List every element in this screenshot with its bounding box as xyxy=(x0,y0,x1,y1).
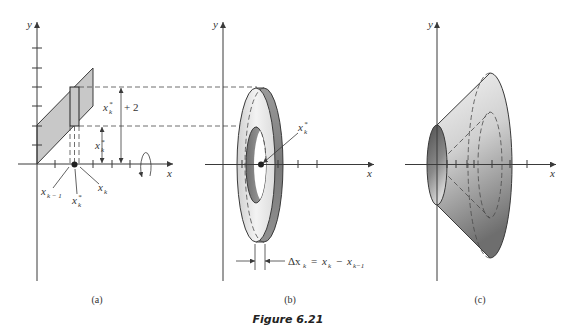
outer-radius-label: x * k + 2 xyxy=(102,100,138,116)
center-point-label: x * k xyxy=(297,120,308,136)
svg-text:x: x xyxy=(297,121,303,133)
point-pointers xyxy=(53,167,99,194)
svg-text:x: x xyxy=(40,185,46,197)
svg-text:*: * xyxy=(109,100,113,108)
y-axis-label: y xyxy=(26,18,32,30)
panel-c: y x (c) xyxy=(405,18,556,306)
rotation-arrow-icon xyxy=(141,153,151,177)
y-axis-label: y xyxy=(427,18,433,30)
svg-text:Δx: Δx xyxy=(288,255,301,267)
svg-text:*: * xyxy=(101,138,105,146)
panel-c-label: (c) xyxy=(474,294,485,306)
svg-text:k: k xyxy=(303,262,307,270)
thickness-label: Δx k = x k − x k−1 xyxy=(288,255,364,270)
svg-text:x: x xyxy=(94,139,100,151)
svg-text:*: * xyxy=(78,193,82,201)
thickness-dimension xyxy=(236,244,285,270)
svg-text:x: x xyxy=(321,255,327,267)
point-label-mid: x * k xyxy=(71,193,82,209)
panel-b: y x x * k xyxy=(205,18,374,306)
inner-radius-label: x * k xyxy=(94,138,105,154)
strip-dashed-guides xyxy=(70,126,79,164)
svg-text:k: k xyxy=(104,188,108,196)
svg-text:k − 1: k − 1 xyxy=(47,192,62,200)
panel-a-label: (a) xyxy=(91,294,102,306)
point-label-right: x k xyxy=(97,181,108,196)
svg-text:k: k xyxy=(109,108,113,116)
figure-6-21: y x x * xyxy=(0,0,576,329)
svg-text:k: k xyxy=(328,262,332,270)
x-axis-label: x xyxy=(366,167,372,179)
svg-text:=: = xyxy=(311,255,317,267)
representative-rectangle xyxy=(70,87,79,126)
svg-text:k: k xyxy=(304,128,308,136)
svg-text:k: k xyxy=(78,201,82,209)
svg-text:x: x xyxy=(71,194,77,206)
panel-b-label: (b) xyxy=(284,294,296,306)
svg-text:−: − xyxy=(336,255,342,267)
svg-text:*: * xyxy=(304,120,308,128)
svg-text:k: k xyxy=(101,146,105,154)
point-label-left: x k − 1 xyxy=(40,185,62,200)
y-axis-label: y xyxy=(212,18,218,30)
panel-a: y x x * xyxy=(18,18,257,306)
x-axis-label: x xyxy=(166,167,172,179)
shaded-region xyxy=(37,68,93,164)
svg-text:x: x xyxy=(346,255,352,267)
sample-point-dot xyxy=(72,162,78,168)
x-axis-label: x xyxy=(549,167,555,179)
svg-text:+ 2: + 2 xyxy=(124,101,138,113)
svg-text:x: x xyxy=(97,181,103,193)
svg-text:k−1: k−1 xyxy=(353,262,364,270)
svg-text:x: x xyxy=(102,101,108,113)
figure-caption: Figure 6.21 xyxy=(253,313,324,326)
